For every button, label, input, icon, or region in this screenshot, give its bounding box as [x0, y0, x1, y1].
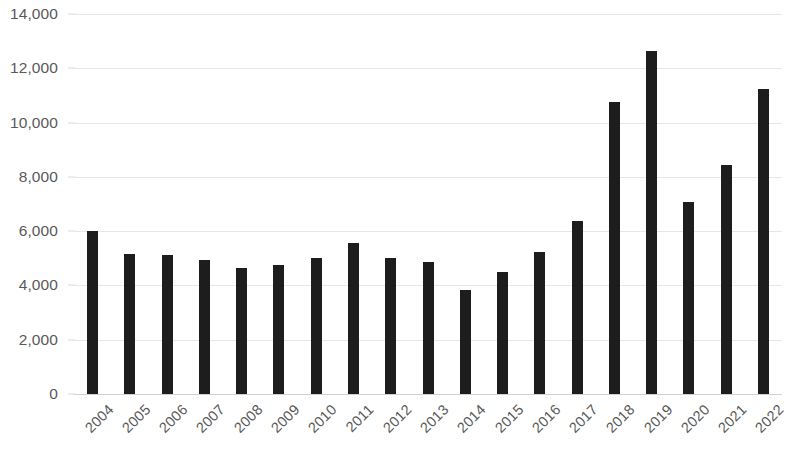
x-axis-tick-label: 2006: [157, 402, 191, 436]
x-axis-tick-label: 2021: [716, 402, 750, 436]
bar: [683, 202, 694, 394]
bars-layer: [74, 14, 782, 394]
bar: [534, 252, 545, 394]
y-axis-tick-label: 12,000: [0, 61, 58, 77]
y-axis-tick-label: 4,000: [0, 278, 58, 294]
y-axis-tick-label: 8,000: [0, 169, 58, 185]
bar: [311, 258, 322, 394]
bar: [646, 51, 657, 394]
x-axis-tick-label: 2005: [120, 402, 154, 436]
x-axis-tick-label: 2011: [344, 402, 377, 435]
y-axis: 14,00012,00010,0008,0006,0004,0002,0000: [0, 0, 66, 450]
x-axis-tick-label: 2022: [753, 402, 787, 436]
bar: [162, 255, 173, 394]
x-axis-tick-label: 2008: [231, 402, 265, 436]
y-axis-tick-label: 2,000: [0, 332, 58, 348]
y-axis-tick-label: 14,000: [0, 6, 58, 22]
bar: [124, 254, 135, 394]
bar: [87, 231, 98, 394]
y-axis-tick-label: 6,000: [0, 223, 58, 239]
bar: [460, 290, 471, 394]
y-axis-tick-label: 10,000: [0, 115, 58, 131]
y-axis-tick-label: 0: [0, 386, 58, 402]
x-axis-tick-label: 2018: [604, 402, 638, 436]
x-axis-tick-label: 2007: [194, 402, 228, 436]
plot-area: [74, 14, 782, 394]
bar: [721, 165, 732, 394]
x-axis-tick-label: 2009: [269, 402, 303, 436]
x-axis: 2004200520062007200820092010201120122013…: [74, 396, 782, 450]
bar: [199, 260, 210, 394]
bar: [572, 221, 583, 394]
axis-baseline: [74, 394, 782, 395]
bar: [236, 268, 247, 394]
x-axis-tick-label: 2012: [380, 402, 414, 436]
x-axis-tick-label: 2019: [641, 402, 675, 436]
bar: [348, 243, 359, 394]
x-axis-tick-label: 2017: [567, 402, 601, 436]
x-axis-tick-label: 2014: [455, 402, 489, 436]
bar: [385, 258, 396, 394]
bar: [423, 262, 434, 394]
x-axis-tick-label: 2013: [418, 402, 452, 436]
x-axis-tick-label: 2004: [82, 402, 116, 436]
x-axis-tick-label: 2010: [306, 402, 340, 436]
bar: [609, 102, 620, 394]
bar: [497, 272, 508, 394]
bar: [273, 265, 284, 394]
x-axis-tick-label: 2015: [492, 402, 526, 436]
x-axis-tick-label: 2016: [529, 402, 563, 436]
x-axis-tick-label: 2020: [678, 402, 712, 436]
bar: [758, 89, 769, 394]
